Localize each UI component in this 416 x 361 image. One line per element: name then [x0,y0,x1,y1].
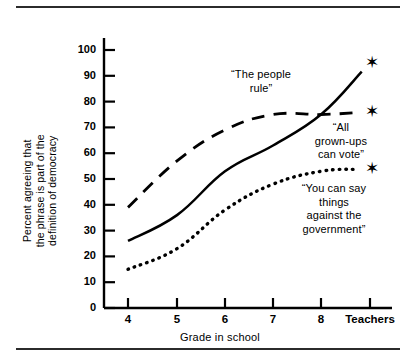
series-end-star-marker: ✶ [365,101,379,121]
x-tick-label: Teachers [345,313,395,325]
annotation-all-grown-ups-can-vote: “All grown-ups can vote” [288,121,394,162]
y-tick-label: 80 [62,95,96,107]
y-tick-label: 10 [62,275,96,287]
x-tick-label: 7 [270,313,276,325]
chart-series-lines [128,72,362,270]
series-end-star-marker: ✶ [365,52,379,72]
x-tick-label: 6 [222,313,228,325]
annotation-the-people-rule: “The people rule” [206,68,316,95]
y-tick-label: 20 [62,249,96,261]
y-tick-label: 0 [62,301,96,313]
y-tick-label: 50 [62,172,96,184]
x-tick-label: 8 [318,313,324,325]
figure-container: ✶✶✶ Percent agreeing that the phrase is … [0,0,416,361]
annotation-you-can-say-things-against-the-government: “You can say things against the governme… [272,182,396,236]
x-tick-label: 5 [174,313,180,325]
y-tick-label: 100 [62,43,96,55]
x-axis-title: Grade in school [120,331,320,343]
chart-plot-area: ✶✶✶ Percent agreeing that the phrase is … [0,0,416,361]
x-tick-label: 4 [125,313,131,325]
y-tick-label: 40 [62,198,96,210]
y-tick-label: 90 [62,69,96,81]
y-tick-label: 70 [62,120,96,132]
y-axis-title: Percent agreeing that the phrase is part… [21,85,59,297]
y-tick-label: 30 [62,224,96,236]
y-tick-label: 60 [62,146,96,158]
